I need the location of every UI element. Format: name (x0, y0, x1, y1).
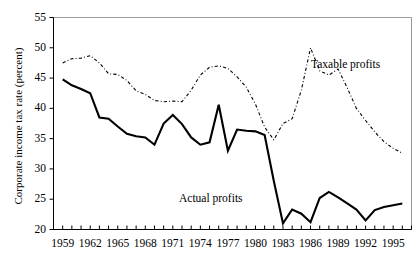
line-chart-canvas (0, 0, 419, 270)
chart-figure: Corporate income tax rate (percent) 2025… (0, 0, 419, 270)
x-tick-label: 1959 (48, 238, 78, 250)
x-tick-label: 1986 (296, 238, 326, 250)
x-tick-label: 1974 (185, 238, 215, 250)
y-tick-label: 45 (20, 72, 46, 84)
y-tick-label: 40 (20, 102, 46, 114)
y-tick-label: 25 (20, 193, 46, 205)
x-tick-label: 1977 (213, 238, 243, 250)
y-axis-ticks (50, 18, 54, 230)
x-tick-label: 1992 (351, 238, 381, 250)
series-label-1: Actual profits (179, 192, 243, 204)
y-tick-label: 50 (20, 42, 46, 54)
x-tick-label: 1995 (378, 238, 408, 250)
y-tick-label: 35 (20, 133, 46, 145)
x-tick-label: 1983 (268, 238, 298, 250)
x-tick-label: 1965 (103, 238, 133, 250)
y-tick-label: 30 (20, 163, 46, 175)
series-label-0: Taxable profits (311, 58, 380, 70)
x-tick-label: 1980 (240, 238, 270, 250)
x-tick-label: 1962 (75, 238, 105, 250)
x-axis-ticks (54, 226, 412, 230)
y-tick-label: 55 (20, 12, 46, 24)
y-tick-label: 20 (20, 224, 46, 236)
x-tick-label: 1968 (130, 238, 160, 250)
x-tick-label: 1971 (158, 238, 188, 250)
x-tick-label: 1989 (323, 238, 353, 250)
